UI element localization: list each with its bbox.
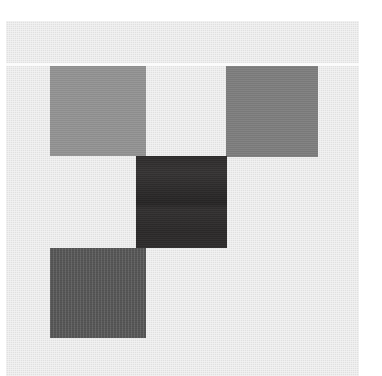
image-canvas <box>0 0 382 376</box>
center-tile <box>136 156 227 248</box>
horizontal-white-seam-line <box>6 63 359 66</box>
bottom-left-tile <box>50 248 146 338</box>
top-right-tile <box>226 66 318 157</box>
top-left-tile <box>50 66 146 156</box>
light-gray-panel <box>6 21 359 376</box>
